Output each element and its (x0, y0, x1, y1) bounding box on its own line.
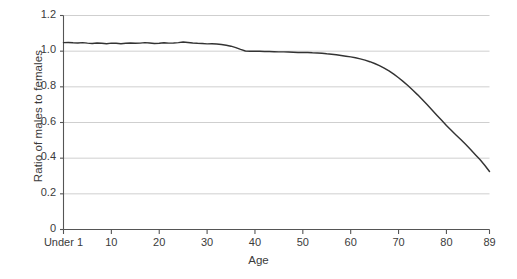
y-tick-label-0: 1.2 (16, 8, 56, 20)
ratio-of-males-to-females-chart: Ratio of males to females Age 1.21.00.80… (0, 0, 517, 279)
y-tick-label-4: 0.4 (16, 150, 56, 162)
y-tick-label-6: 0 (16, 222, 56, 234)
x-tick-label-9: 89 (460, 236, 517, 248)
y-tick-label-5: 0.2 (16, 186, 56, 198)
y-tick-label-1: 1.0 (16, 43, 56, 55)
data-line-ratio (64, 42, 490, 171)
y-tick-label-3: 0.6 (16, 115, 56, 127)
y-tick-label-2: 0.8 (16, 79, 56, 91)
